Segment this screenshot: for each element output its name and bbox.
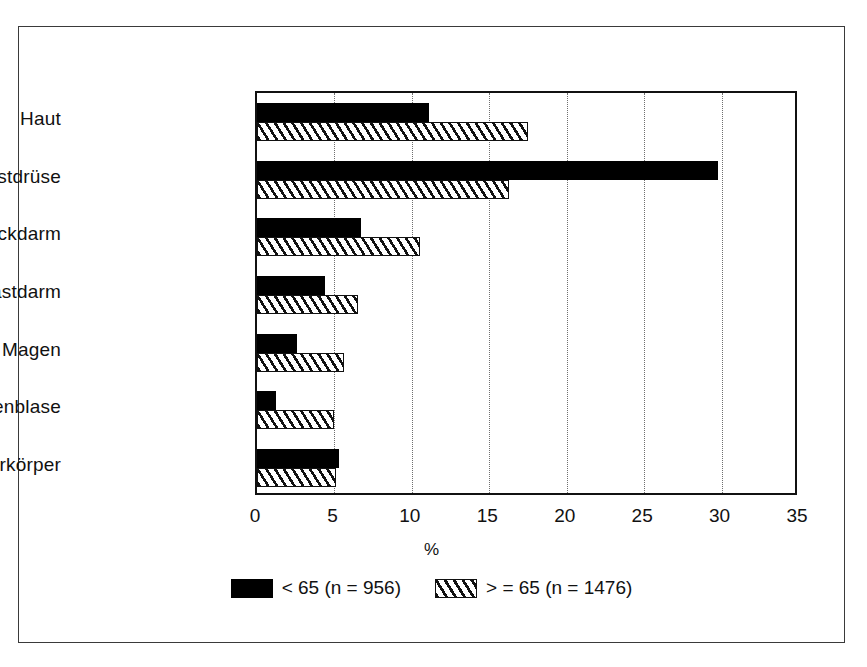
bar-row [257,93,795,151]
bar-row [257,208,795,266]
category-label-2: Dickdarm [0,223,61,245]
x-tick-10: 10 [399,505,420,527]
legend-item-0[interactable]: < 65 (n = 956) [231,577,401,599]
legend-label: > = 65 (n = 1476) [486,577,632,599]
plot-area [255,91,797,495]
bar-row [257,151,795,209]
category-label-4: Magen [2,339,61,361]
bar-under65 [257,391,276,410]
category-label-1: Brustdrüse [0,166,61,188]
category-label-0: Haut [20,108,61,130]
bar-under65 [257,276,325,295]
bar-under65 [257,103,429,122]
bar-rows [257,93,795,493]
bar-under65 [257,449,339,468]
x-tick-15: 15 [477,505,498,527]
bar-over65 [257,410,334,429]
legend-item-1[interactable]: > = 65 (n = 1476) [435,577,632,599]
legend-label: < 65 (n = 956) [282,577,401,599]
bar-row [257,439,795,497]
legend-swatch-hatch [435,579,477,598]
x-axis-title: % [19,540,844,560]
bar-over65 [257,353,344,372]
bar-under65 [257,161,718,180]
bar-over65 [257,237,420,256]
bar-over65 [257,468,336,487]
x-tick-0: 0 [250,505,261,527]
category-label-6: Gebärmutterkörper [0,454,61,476]
bar-over65 [257,295,358,314]
bar-row [257,324,795,382]
x-tick-30: 30 [709,505,730,527]
x-tick-20: 20 [554,505,575,527]
chart-legend: < 65 (n = 956)> = 65 (n = 1476) [19,577,844,599]
x-tick-35: 35 [786,505,807,527]
bar-row [257,266,795,324]
category-label-3: Mastdarm [0,281,61,303]
bar-over65 [257,122,528,141]
legend-swatch-solid [231,579,273,598]
category-label-5: Gallenblase [0,396,61,418]
bar-row [257,382,795,440]
figure-frame: HautBrustdrüseDickdarmMastdarmMagenGalle… [18,26,845,643]
bar-under65 [257,218,361,237]
x-tick-5: 5 [327,505,338,527]
bar-over65 [257,180,509,199]
bar-under65 [257,334,297,353]
x-tick-25: 25 [632,505,653,527]
